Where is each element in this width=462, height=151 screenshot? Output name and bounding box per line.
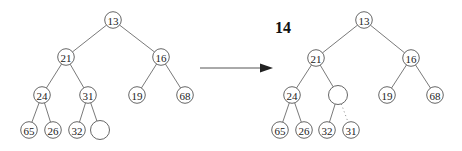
before-empty-hole-node [91,121,110,140]
before-edge-n24-n26 [44,103,50,122]
before-node-31: 31 [80,87,97,104]
after-node-65: 65 [272,122,289,139]
after-node-19: 19 [379,87,396,104]
after-edge-n16-n68 [416,65,431,88]
after-node-26: 26 [296,122,313,139]
node-label: 65 [24,125,36,137]
node-label: 16 [406,53,418,65]
insert-value-label: 14 [275,19,291,36]
after-tree-edges [283,25,431,122]
node-label: 68 [180,90,192,102]
node-label: 13 [108,15,120,27]
before-edge-n31-hole [91,103,97,121]
after-edge-n24-n65 [283,103,290,122]
before-node-21: 21 [58,49,75,66]
node-label: 31 [83,90,94,102]
before-edge-n13-n21 [73,25,107,52]
after-tree-nodes: 13211624196865263231 [272,12,444,139]
node-label: 19 [132,90,144,102]
node-label: 26 [299,125,311,137]
after-empty-hole-node [329,86,348,105]
after-edge-n16-n19 [392,65,407,88]
after-node-68: 68 [427,87,444,104]
before-tree-edges [32,25,181,122]
node-label: 24 [37,90,49,102]
before-node-16: 16 [153,49,170,66]
node-label: 32 [72,125,83,137]
after-node-31: 31 [343,122,360,139]
after-node-16: 16 [403,50,420,67]
after-node-21: 21 [308,50,325,67]
before-tree-nodes: 13211624311968652632 [21,12,194,140]
after-node-13: 13 [356,12,373,29]
node-label: 19 [382,90,394,102]
transition-arrow [200,64,273,73]
after-edge-hole-n31 [341,104,348,122]
after-edge-n13-n16 [370,25,404,53]
after-edge-n21-n24 [297,65,312,88]
before-edge-n31-n32 [79,103,85,122]
before-node-19: 19 [129,87,146,104]
node-label: 21 [61,52,72,64]
after-node-24: 24 [284,87,301,104]
node-label: 24 [287,90,299,102]
after-edge-hole-n32 [329,104,335,122]
after-edge-n21-hole [320,65,333,87]
heap-percolate-up-diagram: 13211624311968652632 14 1321162419686526… [0,0,462,151]
after-edge-n24-n26 [295,103,302,122]
node-label: 68 [430,90,442,102]
node-label: 21 [311,53,322,65]
node-label: 16 [156,52,168,64]
node-label: 26 [48,125,60,137]
before-node-68: 68 [177,87,194,104]
before-edge-n21-n24 [46,64,61,88]
node-label: 31 [346,125,357,137]
before-edge-n13-n16 [120,25,155,52]
before-edge-n16-n68 [165,64,180,88]
node-label: 32 [322,125,333,137]
node-circle [329,86,348,105]
before-node-26: 26 [45,122,62,139]
before-node-24: 24 [34,87,51,104]
before-node-65: 65 [21,122,38,139]
before-node-13: 13 [105,12,122,29]
node-label: 65 [275,125,287,137]
after-edge-n13-n21 [323,25,358,53]
before-node-32: 32 [69,122,86,139]
before-edge-n24-n65 [32,103,39,122]
node-label: 13 [359,15,371,27]
before-edge-n16-n19 [141,64,156,88]
arrow-head-icon [260,64,273,73]
before-edge-n21-n31 [70,64,84,88]
after-node-32: 32 [319,122,336,139]
node-circle [91,121,110,140]
